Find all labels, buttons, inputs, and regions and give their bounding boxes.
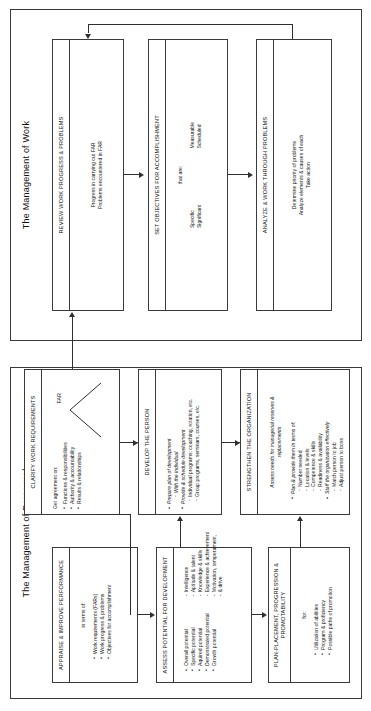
- box-assess-body: Overall potential Specific potential Aqu…: [174, 548, 251, 682]
- box-analyze-body: Determine priority of problems Analyze e…: [274, 40, 331, 310]
- connector-strengthen-spine-arrow: [235, 440, 240, 446]
- connector-assess-to-plan-arrow: [262, 612, 267, 618]
- panel-work-title: The Management of Work: [21, 10, 31, 340]
- clarify-bullet-list: Functions & responsibilities Authority &…: [62, 375, 83, 509]
- appraise-lead: in terms of:: [80, 553, 87, 677]
- box-assess-title: ASSESS POTENTIAL FOR DEVELOPMENT: [157, 548, 174, 682]
- connector-clarify-to-review-arrow: [69, 312, 75, 317]
- box-set-objectives-for-accomplishment[interactable]: SET OBJECTIVES FOR ACCOMPLISHMENT that a…: [148, 39, 228, 311]
- list-item: Staff the organization effectively: [324, 375, 331, 499]
- assess-sub-list: Intelligence Aptitude & talent Knowledge…: [183, 532, 224, 602]
- list-item: Experience & achievement: [204, 532, 211, 597]
- list-item: Growth potential: [211, 613, 218, 671]
- list-item: Overall potential: [183, 613, 190, 671]
- list-item: Possible paths of promotion: [327, 553, 334, 655]
- box-review-title: REVIEW WORK PROGRESS & PROBLEMS: [53, 40, 70, 310]
- box-clarify-work-requirements[interactable]: CLARIFY WORK REQUIREMENTS FAR Get agreem…: [24, 369, 120, 515]
- box-appraise-title: APPRAISE & IMPROVE PERFORMANCE: [53, 548, 70, 682]
- develop-bullet-list: Prepare plan of development With the ind…: [166, 375, 200, 509]
- list-item: Program & proficiency: [320, 553, 327, 655]
- list-item: Motivation, temperament,: [211, 532, 218, 597]
- list-item: Prepare plan of development: [166, 375, 173, 509]
- develop-sub-list-b: Individual programs: coaching, rotation,…: [187, 375, 201, 509]
- connector-develop-spine-arrow: [133, 440, 138, 446]
- list-item: Work progress & problems: [99, 553, 106, 659]
- objectives-column-2: Measurable Scheduled: [189, 122, 203, 149]
- box-analyze-work-through-problems[interactable]: ANALYZE & WORK THROUGH PROBLEMS Determin…: [256, 39, 332, 311]
- objectives-lead: that are:: [177, 45, 184, 305]
- list-item: Results & relationships: [76, 375, 83, 509]
- develop-sub-list-a: With the individual: [173, 375, 180, 509]
- box-appraise-improve-performance[interactable]: APPRAISE & IMPROVE PERFORMANCE in terms …: [52, 547, 138, 683]
- connector-plan-to-strengthen-h: [300, 520, 301, 547]
- diagram-stage: The Management of Personnel APPRAISE & I…: [0, 0, 371, 711]
- list-item: Significant: [196, 205, 203, 229]
- connector-analyze-feedback-h1: [292, 24, 293, 39]
- review-line: Progress in carrying out FAR: [90, 45, 97, 305]
- list-item: Readiness & availability: [317, 375, 324, 491]
- appraise-bullet-list: Work requirements (FARs) Work progress &…: [92, 553, 113, 677]
- list-item: Plan & provide them in terms of:: [290, 375, 297, 499]
- box-plan-placement-title: PLAN-PLACEMENT, PROGRESSION & PROMOTABIL…: [269, 548, 291, 682]
- objectives-column-1: Specific Significant: [189, 205, 203, 229]
- box-develop-the-person[interactable]: DEVELOP THE PERSON Prepare plan of devel…: [138, 369, 222, 515]
- list-item: Aquired potential: [197, 613, 204, 671]
- box-assess-potential-for-development[interactable]: ASSESS POTENTIAL FOR DEVELOPMENT Overall…: [156, 547, 252, 683]
- list-item: Provide & schedule development: [180, 375, 187, 509]
- diagram-sheet: The Management of Personnel APPRAISE & I…: [0, 0, 371, 711]
- strengthen-bullet-list: Plan & provide them in terms of: Number …: [290, 375, 345, 509]
- list-item: Specific potential: [190, 613, 197, 671]
- list-item: Group programs, seminars, courses, etc.: [194, 375, 201, 501]
- strengthen-lead: Assess needs for managerial reserves & r…: [269, 387, 283, 497]
- assess-columns: Overall potential Specific potential Aqu…: [183, 553, 224, 677]
- connector-plan-to-strengthen-arrow: [297, 516, 303, 521]
- far-triangle-wrap: FAR Get agreement on: Functions & respon…: [52, 375, 121, 509]
- list-item: Match person to job: [331, 375, 338, 491]
- rotated-canvas: The Management of Personnel APPRAISE & I…: [0, 0, 371, 711]
- list-item: Individual programs: coaching, rotation,…: [187, 375, 194, 501]
- box-plan-placement-body: for: Utilization of abilities Program & …: [291, 548, 349, 682]
- box-clarify-title: CLARIFY WORK REQUIREMENTS: [25, 370, 42, 514]
- analyze-line: Determine priority of problems: [291, 45, 298, 305]
- box-plan-placement-progression-promotability[interactable]: PLAN-PLACEMENT, PROGRESSION & PROMOTABIL…: [268, 547, 350, 683]
- list-item: Aptitude & talent: [190, 532, 197, 597]
- strengthen-sub-list-a: Number needed Location & levels Competen…: [297, 375, 325, 499]
- box-develop-title: DEVELOP THE PERSON: [139, 370, 156, 514]
- connector-analyze-feedback-arrow: [85, 34, 91, 39]
- connector-appraise-to-assess-arrow: [150, 612, 155, 618]
- list-item: Measurable: [189, 122, 196, 149]
- box-appraise-body: in terms of: Work requirements (FARs) Wo…: [70, 548, 137, 682]
- list-item: Knowledge & skills: [197, 532, 204, 597]
- analyze-line: Take action: [305, 45, 312, 305]
- box-clarify-body: FAR Get agreement on: Functions & respon…: [42, 370, 119, 514]
- connector-objectives-to-analyze-v: [228, 174, 249, 175]
- box-review-work-progress-problems[interactable]: REVIEW WORK PROGRESS & PROBLEMS Progress…: [52, 39, 124, 311]
- list-item: Specific: [189, 205, 196, 229]
- plan-placement-lead: for:: [301, 553, 308, 677]
- box-objectives-body: that are: Specific Significant Measurabl…: [166, 40, 227, 310]
- plan-placement-bullet-list: Utilization of abilities Program & profi…: [313, 553, 334, 677]
- box-analyze-title: ANALYZE & WORK THROUGH PROBLEMS: [257, 40, 274, 310]
- review-line: Problems encountered in FAR: [97, 45, 104, 305]
- objectives-columns: Specific Significant Measurable Schedule…: [189, 45, 203, 305]
- list-item: Demonstrated potential: [204, 613, 211, 671]
- list-item: Intelligence: [183, 532, 190, 597]
- list-item: Adjust person to boss: [338, 375, 345, 491]
- connector-clarify-to-review-h: [72, 316, 73, 369]
- strengthen-sub-list-b: Match person to job Adjust person to bos…: [331, 375, 345, 499]
- list-item: Scheduled: [196, 122, 203, 149]
- list-item: With the individual: [173, 375, 180, 497]
- list-item: Location & levels: [304, 375, 311, 491]
- list-item: Authority & accountability: [69, 375, 76, 509]
- box-develop-body: Prepare plan of development With the ind…: [156, 370, 221, 514]
- list-item: & drive: [217, 532, 224, 597]
- assess-bullet-list: Overall potential Specific potential Aqu…: [183, 613, 224, 671]
- list-item: Objectives for accomplishment: [106, 553, 113, 659]
- connector-review-to-objectives-v: [124, 174, 140, 175]
- connector-assess-to-develop-h: [180, 520, 181, 547]
- box-strengthen-the-organization[interactable]: STRENGTHEN THE ORGANIZATION Assess needs…: [240, 369, 350, 515]
- list-item: Number needed: [297, 375, 304, 491]
- connector-assess-to-develop-arrow: [177, 516, 183, 521]
- box-objectives-title: SET OBJECTIVES FOR ACCOMPLISHMENT: [149, 40, 166, 310]
- connector-review-to-objectives-arrow: [139, 172, 144, 178]
